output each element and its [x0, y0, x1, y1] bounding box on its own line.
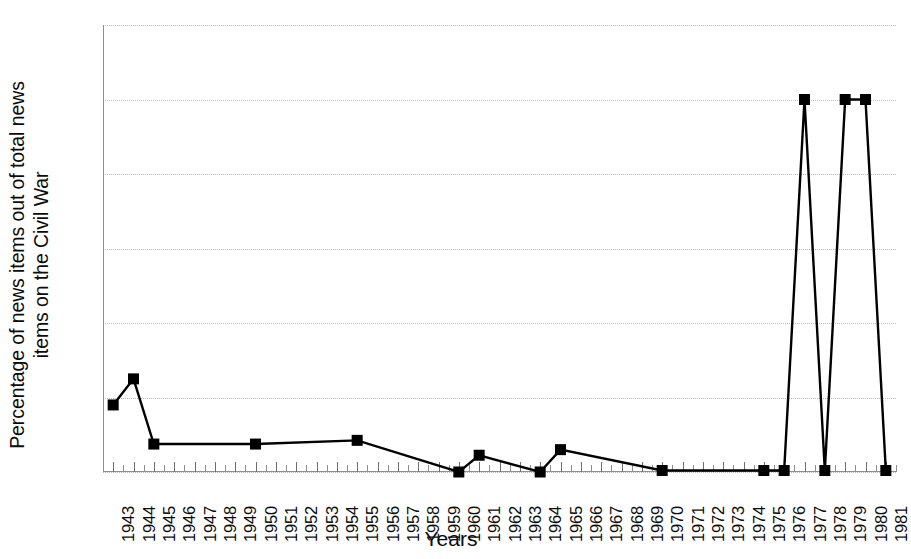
x-axis-title: Years: [0, 527, 902, 551]
data-point-marker-1976: [779, 465, 790, 476]
data-point-marker-1955: [352, 435, 363, 446]
data-point-marker-1961: [474, 450, 485, 461]
data-point-marker-1978: [819, 465, 830, 476]
y-axis-title: Percentage of news items out of total ne…: [0, 25, 60, 505]
x-tick-mark: [896, 465, 897, 472]
data-point-marker-1950: [250, 439, 261, 450]
series-polyline: [113, 100, 886, 473]
data-point-marker-1964: [535, 467, 546, 478]
data-point-marker-1981: [880, 465, 891, 476]
data-point-marker-1975: [758, 465, 769, 476]
data-point-marker-1960: [453, 467, 464, 478]
data-point-marker-1977: [799, 94, 810, 105]
data-point-marker-1970: [657, 465, 668, 476]
data-point-marker-1944: [128, 373, 139, 384]
data-point-marker-1945: [148, 439, 159, 450]
data-point-marker-1979: [840, 94, 851, 105]
data-point-marker-1943: [108, 399, 119, 410]
y-axis-title-line-1: Percentage of news items out of total ne…: [6, 81, 30, 449]
data-point-marker-1980: [860, 94, 871, 105]
data-point-marker-1965: [555, 444, 566, 455]
data-series-line: [103, 25, 896, 472]
y-axis-title-line-2: items on the Civil War: [30, 172, 54, 359]
gridline-0: [103, 472, 896, 473]
plot-area: 020406080100120 194319441945194619471948…: [103, 25, 896, 472]
